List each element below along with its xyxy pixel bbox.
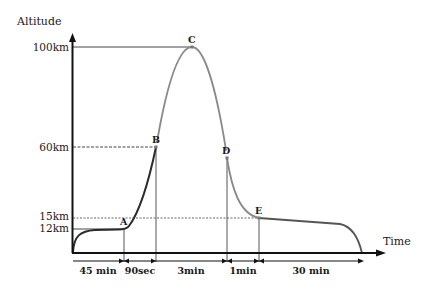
curve-segment-glide [259,218,362,253]
dim-arrow-end-icon [358,259,364,264]
dim-arrow-b-icon [151,259,156,264]
tick-15km: 15km [39,210,69,222]
tick-60km: 60km [39,141,69,153]
point-markers [155,46,261,220]
duration-label-30min: 30 min [292,265,329,276]
y-axis-arrow-icon [69,33,76,42]
duration-label-90sec: 90sec [125,265,156,276]
altitude-guide-lines [73,47,259,229]
point-label-a: A [119,216,128,227]
dim-arrow-e-icon [254,259,259,264]
marker-e [258,217,261,220]
point-label-c: C [188,34,196,45]
marker-d [226,157,229,160]
tick-100km: 100km [33,41,69,53]
duration-label-3min: 3min [177,265,204,276]
curve-segment-climb [73,147,156,252]
marker-c [191,46,194,49]
dim-arrow-d-icon [222,259,227,264]
tick-12km: 12km [39,222,69,234]
time-drop-lines [124,147,259,262]
duration-label-45min: 45 min [79,265,116,276]
dim-arrow-a2-icon [124,259,129,264]
duration-dimension-line [73,259,364,264]
y-axis-title: Altitude [16,15,61,28]
dim-arrow-a-icon [119,259,124,264]
point-label-e: E [255,205,262,216]
marker-b [155,146,158,149]
altitude-profile-diagram: Altitude Time A B C D E 100km 60km 15km … [0,0,428,296]
flight-curve [73,47,362,253]
curve-segment-ballistic [157,47,226,150]
point-label-d: D [222,145,230,156]
duration-label-1min: 1min [229,265,256,276]
dim-arrow-d2-icon [227,259,232,264]
x-axis-title: Time [383,235,411,248]
point-label-b: B [152,134,160,145]
dim-arrow-e2-icon [259,259,264,264]
x-axis-arrow-icon [376,250,386,257]
